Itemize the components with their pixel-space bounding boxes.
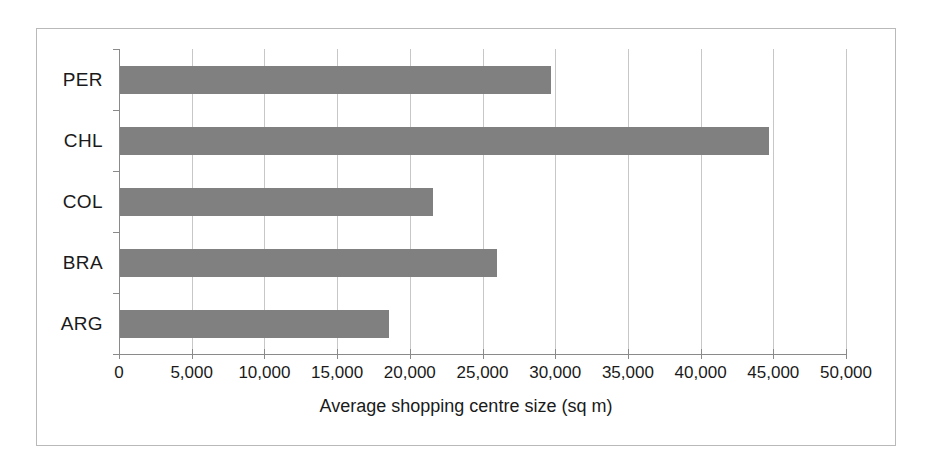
x-tick-label-45000: 45,000 [747, 363, 799, 383]
gridline-50000 [846, 49, 847, 354]
y-axis-category-labels: PER CHL COL BRA ARG [37, 49, 119, 354]
x-tick-label-30000: 30,000 [529, 363, 581, 383]
bar-per[interactable] [119, 66, 551, 94]
x-tick-40000 [701, 349, 702, 359]
bar-row [119, 49, 846, 110]
x-tick-label-20000: 20,000 [384, 363, 436, 383]
bar-bra[interactable] [119, 249, 497, 277]
x-axis-tick-labels: 05,00010,00015,00020,00025,00030,00035,0… [37, 363, 897, 389]
bar-chl[interactable] [119, 127, 769, 155]
x-tick-0 [119, 349, 120, 359]
y-tick-0 [113, 49, 119, 50]
y-axis-label-4: ARG [37, 293, 119, 354]
x-tick-10000 [264, 349, 265, 359]
x-tick-35000 [628, 349, 629, 359]
x-axis-title: Average shopping centre size (sq m) [37, 396, 895, 417]
x-tick-label-10000: 10,000 [238, 363, 290, 383]
bar-row [119, 110, 846, 171]
x-tick-25000 [483, 349, 484, 359]
x-tick-label-40000: 40,000 [675, 363, 727, 383]
bar-col[interactable] [119, 188, 433, 216]
x-tick-label-35000: 35,000 [602, 363, 654, 383]
x-tick-20000 [410, 349, 411, 359]
x-tick-30000 [555, 349, 556, 359]
chart-figure: PER CHL COL BRA ARG 05,00010,000 [36, 28, 896, 446]
y-tick-1 [113, 110, 119, 111]
x-tick-50000 [846, 349, 847, 359]
x-tick-label-25000: 25,000 [457, 363, 509, 383]
bar-row [119, 293, 846, 354]
y-axis-label-3: BRA [37, 232, 119, 293]
y-axis-label-2: COL [37, 171, 119, 232]
x-tick-label-5000: 5,000 [170, 363, 213, 383]
x-tick-45000 [773, 349, 774, 359]
x-tick-label-0: 0 [114, 363, 123, 383]
y-axis-label-1: CHL [37, 110, 119, 171]
y-tick-4 [113, 293, 119, 294]
bar-row [119, 232, 846, 293]
x-tick-5000 [192, 349, 193, 359]
bar-arg[interactable] [119, 310, 389, 338]
bar-row [119, 171, 846, 232]
plot-area [119, 49, 846, 354]
bar-series [119, 49, 846, 354]
x-tick-label-15000: 15,000 [311, 363, 363, 383]
x-tick-label-50000: 50,000 [820, 363, 872, 383]
y-axis-label-0: PER [37, 49, 119, 110]
y-axis-line [119, 49, 120, 354]
x-axis-line [119, 354, 846, 355]
x-tick-15000 [337, 349, 338, 359]
y-tick-3 [113, 232, 119, 233]
y-tick-2 [113, 171, 119, 172]
